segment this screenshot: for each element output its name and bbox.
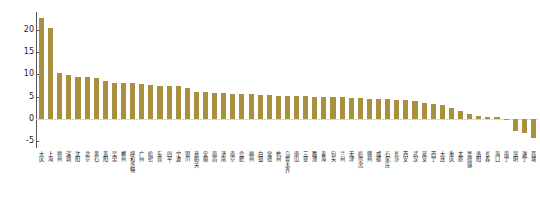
x-axis-label: 哈密 [146, 152, 155, 163]
x-axis-label: 乌鲁木齐 [283, 152, 292, 174]
bar[interactable] [139, 84, 144, 119]
bar[interactable] [85, 77, 90, 119]
bar[interactable] [75, 77, 80, 119]
x-axis-label: 柳州 [247, 152, 256, 163]
x-axis-label: 白银 [256, 152, 265, 163]
bar[interactable] [494, 117, 499, 119]
x-axis-label: 鹰潭 [310, 152, 319, 163]
x-axis-label: 重庆 [447, 152, 456, 163]
bar[interactable] [112, 83, 117, 119]
y-tick-label: 10 [10, 69, 34, 78]
x-axis-label: 广州 [137, 152, 146, 163]
y-tick-label: 5 [10, 92, 34, 101]
bar[interactable] [358, 98, 363, 119]
x-axis-label: 天津 [347, 152, 356, 163]
x-axis-label: 青海 [319, 152, 328, 163]
bar[interactable] [94, 78, 99, 119]
bar[interactable] [531, 119, 536, 138]
x-axis-label: 常德 [265, 152, 274, 163]
bar[interactable] [467, 114, 472, 119]
bar[interactable] [230, 94, 235, 119]
bar[interactable] [422, 103, 427, 119]
bar[interactable] [349, 98, 354, 119]
bar[interactable] [504, 119, 509, 120]
x-axis-label: 呼和浩特 [128, 152, 137, 174]
bar[interactable] [167, 86, 172, 119]
bar[interactable] [431, 104, 436, 119]
x-axis-label: 合肥 [237, 152, 246, 163]
bar[interactable] [458, 111, 463, 119]
bar[interactable] [330, 97, 335, 119]
bar[interactable] [249, 94, 254, 119]
bar[interactable] [522, 119, 527, 133]
x-axis-label: 延安 [420, 152, 429, 163]
x-axis-label: 三亚 [301, 152, 310, 163]
bar[interactable] [385, 99, 390, 119]
bar[interactable] [403, 100, 408, 119]
bar[interactable] [394, 100, 399, 119]
x-axis-label: 深圳 [64, 152, 73, 163]
x-axis-label: 长春 [483, 152, 492, 163]
bar[interactable] [303, 96, 308, 119]
bar[interactable] [148, 85, 153, 119]
bar[interactable] [258, 95, 263, 119]
bar[interactable] [285, 96, 290, 119]
bar[interactable] [294, 96, 299, 119]
x-axis-label: 晋城 [529, 152, 538, 163]
bar[interactable] [276, 96, 281, 119]
bar[interactable] [321, 97, 326, 119]
x-axis-label: 海口 [492, 152, 501, 163]
x-axis-label: 贵阳 [101, 152, 110, 163]
x-axis-label: 西宁 [429, 152, 438, 163]
x-axis-label: 唐山 [292, 152, 301, 163]
bar[interactable] [367, 99, 372, 120]
x-axis-label: 西安 [401, 152, 410, 163]
x-axis-label: 沈阳 [73, 152, 82, 163]
y-tick-label: -5 [10, 136, 34, 145]
bar[interactable] [221, 93, 226, 119]
x-axis-label: 安顺 [201, 152, 210, 163]
bar[interactable] [39, 18, 44, 119]
x-axis-label: 成都 [374, 152, 383, 163]
bar[interactable] [194, 92, 199, 119]
x-axis-label: 北京 [83, 152, 92, 163]
bar[interactable] [340, 97, 345, 119]
x-axis-label: 银川 [183, 152, 192, 163]
x-axis-label: 包头 [328, 152, 337, 163]
bar[interactable] [48, 28, 53, 119]
bar[interactable] [485, 117, 490, 119]
bar[interactable] [185, 88, 190, 119]
x-axis-label: 济南 [219, 152, 228, 163]
bar[interactable] [267, 95, 272, 119]
x-axis-label: 石家庄 [383, 152, 392, 168]
bar[interactable] [130, 83, 135, 119]
bar[interactable] [476, 116, 481, 119]
bar[interactable] [412, 101, 417, 119]
bar[interactable] [203, 92, 208, 119]
x-axis-label: 哈尔滨 [356, 152, 365, 168]
bar[interactable] [157, 86, 162, 119]
x-axis-label: 长沙 [392, 152, 401, 163]
x-axis-label: 南昌 [210, 152, 219, 163]
bar[interactable] [449, 108, 454, 119]
bar[interactable] [103, 81, 108, 119]
x-axis-label: 四平 [165, 152, 174, 163]
x-axis-label: 嘉峪关 [192, 152, 201, 168]
bar[interactable] [176, 86, 181, 119]
plot-area [37, 12, 538, 148]
bar[interactable] [66, 75, 71, 119]
bar[interactable] [212, 93, 217, 119]
bar[interactable] [513, 119, 518, 131]
bar[interactable] [239, 94, 244, 119]
bar[interactable] [440, 105, 445, 119]
x-axis-label: 吴忠 [110, 152, 119, 163]
x-axis-label: 景德镇 [465, 152, 474, 168]
bar[interactable] [312, 97, 317, 119]
bar[interactable] [121, 83, 126, 119]
x-axis-label: 兰州 [338, 152, 347, 163]
bar[interactable] [376, 99, 381, 119]
x-axis-label: 上海 [46, 152, 55, 163]
bar[interactable] [57, 73, 62, 119]
x-axis-label: 太原 [456, 152, 465, 163]
x-axis-label: 赣州 [365, 152, 374, 163]
